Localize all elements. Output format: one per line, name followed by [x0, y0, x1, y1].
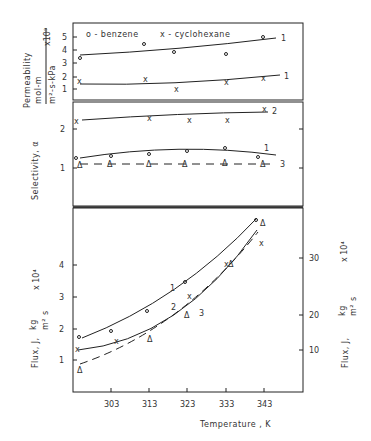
svg-text:Δ: Δ — [184, 311, 190, 320]
svg-text:x: x — [262, 105, 267, 114]
svg-text:x: x — [259, 239, 264, 248]
svg-text:1: 1 — [62, 85, 67, 94]
figure: o - benzene x - cyclohexane 54321 11 xxx… — [0, 0, 371, 441]
svg-text:x: x — [75, 345, 80, 354]
svg-text:x: x — [147, 114, 152, 123]
svg-text:3: 3 — [199, 309, 204, 318]
svg-text:333: 333 — [219, 400, 234, 409]
svg-text:Δ: Δ — [260, 160, 266, 169]
svg-text:2: 2 — [171, 303, 176, 312]
svg-text:4: 4 — [62, 46, 67, 55]
svg-text:x: x — [224, 78, 229, 87]
svg-text:x: x — [174, 85, 179, 94]
svg-text:303: 303 — [104, 400, 119, 409]
svg-text:x: x — [74, 117, 79, 126]
svg-text:m²-s-kPa: m²-s-kPa — [48, 65, 57, 104]
panel-permeability: o - benzene x - cyclohexane 54321 11 xxx… — [23, 23, 303, 108]
svg-text:x: x — [187, 292, 192, 301]
svg-text:x: x — [225, 116, 230, 125]
svg-text:m² s: m² s — [349, 296, 358, 316]
svg-text:Δ: Δ — [260, 219, 266, 228]
svg-text:2: 2 — [60, 125, 65, 134]
svg-text:x: x — [143, 75, 148, 84]
svg-text:1: 1 — [284, 72, 289, 81]
x-axis-label: Temperature , K — [199, 420, 271, 429]
svg-text:343: 343 — [257, 400, 272, 409]
svg-text:x: x — [187, 116, 192, 125]
svg-text:3: 3 — [280, 160, 285, 169]
panel-flux: 4321 302010 123 xxxxx ΔΔΔΔΔ 303 313 323 … — [29, 208, 358, 429]
selectivity-label: Selectivity, α — [31, 141, 40, 200]
svg-text:x: x — [114, 337, 119, 346]
svg-text:kg: kg — [338, 305, 347, 316]
svg-text:1: 1 — [170, 284, 175, 293]
svg-text:Δ: Δ — [222, 159, 228, 168]
svg-text:x10⁹: x10⁹ — [43, 28, 52, 46]
svg-text:313: 313 — [142, 400, 157, 409]
svg-text:1: 1 — [264, 144, 269, 153]
svg-text:Δ: Δ — [107, 160, 113, 169]
svg-text:3: 3 — [62, 59, 67, 68]
svg-text:x: x — [261, 74, 266, 83]
svg-text:5: 5 — [62, 33, 67, 42]
svg-text:kg: kg — [29, 319, 38, 330]
svg-text:3: 3 — [59, 293, 64, 302]
svg-text:30: 30 — [309, 254, 319, 263]
svg-text:Δ: Δ — [77, 366, 83, 375]
svg-text:Δ: Δ — [77, 161, 83, 170]
flux-left-label: Flux, J, — [31, 337, 40, 368]
svg-text:x 10⁴: x 10⁴ — [340, 241, 349, 262]
svg-text:4: 4 — [59, 261, 64, 270]
svg-text:1: 1 — [60, 164, 65, 173]
svg-text:323: 323 — [180, 400, 195, 409]
svg-text:m² s: m² s — [41, 310, 50, 330]
svg-text:10: 10 — [309, 346, 319, 355]
svg-text:1: 1 — [281, 34, 286, 43]
svg-text:x 10⁴: x 10⁴ — [32, 269, 41, 290]
svg-text:2: 2 — [272, 107, 277, 116]
svg-text:2: 2 — [62, 73, 67, 82]
flux-right-label: Flux, J, — [341, 337, 350, 368]
svg-text:2: 2 — [59, 325, 64, 334]
legend-benzene: o - benzene — [86, 30, 139, 39]
svg-text:x: x — [77, 77, 82, 86]
svg-text:mol-m: mol-m — [34, 76, 43, 104]
svg-text:Δ: Δ — [182, 160, 188, 169]
svg-text:Δ: Δ — [147, 335, 153, 344]
svg-text:Δ: Δ — [228, 260, 234, 269]
panel-selectivity: 21 213 xxxxx ΔΔΔΔΔΔ Selectivity, α — [31, 102, 303, 206]
legend-cyclohexane: x - cyclohexane — [160, 30, 230, 39]
svg-text:Δ: Δ — [146, 160, 152, 169]
svg-text:1: 1 — [59, 356, 64, 365]
svg-text:20: 20 — [309, 311, 319, 320]
permeability-label: Permeability — [23, 52, 32, 108]
